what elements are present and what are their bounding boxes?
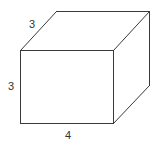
- depth-label: 3: [29, 18, 35, 30]
- prism-edges: [21, 12, 150, 124]
- top-right-depth-edge: [114, 12, 150, 51]
- top-left-depth-edge: [21, 12, 57, 51]
- prism-diagram: 3 3 4: [0, 0, 157, 145]
- width-label: 4: [65, 129, 71, 141]
- front-face: [21, 51, 114, 124]
- height-label: 3: [8, 80, 14, 92]
- bottom-right-depth-edge: [114, 86, 150, 124]
